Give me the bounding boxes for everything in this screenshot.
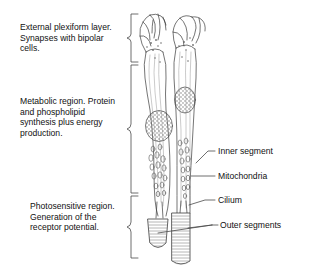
annotation-line: synthesis plus energy — [20, 117, 115, 128]
leader-cilium — [189, 200, 215, 205]
annotation-line: Photosensitive region. — [30, 201, 115, 212]
label-mitochondria: Mitochondria — [218, 171, 267, 182]
annotation-line: External plexiform layer. — [20, 22, 112, 33]
label-outer-segments: Outer segments — [220, 220, 281, 231]
annotation-line: Metabolic region. Protein — [20, 96, 115, 107]
label-cilium: Cilium — [218, 195, 242, 206]
photoreceptor-diagram: External plexiform layer. Synapses with … — [0, 0, 312, 275]
label-inner-segment: Inner segment — [218, 146, 273, 157]
leader-inner-segment — [196, 151, 215, 163]
annotation-line: Generation of the — [30, 212, 115, 223]
leader-outer-segments — [158, 225, 218, 233]
annotation-line: Synapses with bipolar — [20, 33, 112, 44]
annotation-line: and phospholipid — [20, 107, 115, 118]
annotation-line: production. — [20, 128, 115, 139]
annotation-metabolic-region: Metabolic region. Protein and phospholip… — [20, 96, 115, 138]
annotation-line: cells. — [20, 43, 112, 54]
annotation-photosensitive-region: Photosensitive region. Generation of the… — [30, 201, 115, 233]
annotation-line: receptor potential. — [30, 222, 115, 233]
annotation-external-plexiform: External plexiform layer. Synapses with … — [20, 22, 112, 54]
